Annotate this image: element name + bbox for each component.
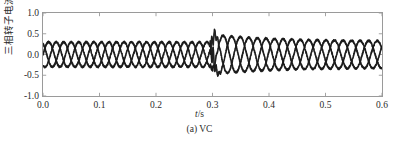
figure-caption: (a) VC bbox=[0, 124, 399, 134]
x-axis-tick-labels: 0.00.10.20.30.40.50.6 bbox=[0, 0, 399, 142]
x-axis-title-unit: /s bbox=[198, 109, 204, 119]
x-axis-title: t/s bbox=[0, 109, 399, 119]
figure-panel-a: 三相转子电流/kA 1.00.50.0-0.5-1.0 0.00.10.20.3… bbox=[0, 0, 399, 142]
